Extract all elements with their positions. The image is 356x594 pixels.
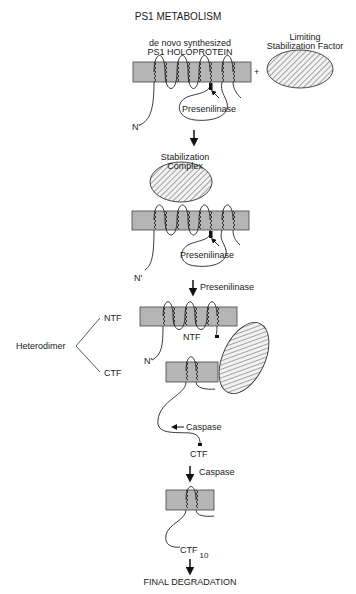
caspase-inline-label: Caspase xyxy=(186,422,222,432)
holoprotein-label-line2: PS1 HOLOPROTEIN xyxy=(140,47,240,57)
ntf-branch-label: NTF xyxy=(104,313,122,323)
complex-label-line2: Complex xyxy=(140,161,230,171)
ntf-membrane xyxy=(140,307,237,326)
caspase-step-label: Caspase xyxy=(199,467,235,477)
ctf-membrane xyxy=(166,362,218,382)
ctf10-subscript: 10 xyxy=(200,551,209,560)
stabilization-factor-ellipse xyxy=(267,50,333,88)
ntf-inner-label: NTF xyxy=(183,332,201,342)
presenilinase-label: Presenilinase xyxy=(180,250,234,260)
n-terminus-label: N' xyxy=(132,122,140,132)
ctf-membrane xyxy=(166,490,214,510)
cleavage-site xyxy=(209,231,213,238)
ctf-branch-label: CTF xyxy=(104,368,122,378)
presenilinase-label: Presenilinase xyxy=(182,104,236,114)
cleavage-site xyxy=(209,83,213,90)
diagram-title: PS1 METABOLISM xyxy=(128,12,228,22)
presenilinase-arrow-label: Presenilinase xyxy=(200,282,254,292)
diagram-canvas xyxy=(0,0,356,594)
final-degradation-label: FINAL DEGRADATION xyxy=(128,577,252,587)
stabilization-ellipse xyxy=(209,315,279,402)
plus-sign: + xyxy=(254,67,259,77)
heterodimer-label: Heterodimer xyxy=(16,341,66,351)
ctf10-label: CTF10 xyxy=(180,545,206,556)
stage4-ctf xyxy=(166,487,214,548)
ctf-label: CTF xyxy=(190,449,208,459)
n-terminus-label: N' xyxy=(134,273,142,283)
factor-label-line2: Stabilization Factor xyxy=(255,41,355,51)
n-terminus-label: N' xyxy=(144,356,152,366)
heterodimer-bracket xyxy=(76,318,100,372)
membrane xyxy=(132,211,249,230)
ctf10-main: CTF xyxy=(180,545,198,555)
